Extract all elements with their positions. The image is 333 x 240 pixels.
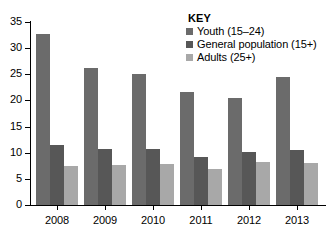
bar [194,157,208,205]
bar [36,34,50,205]
x-axis-label: 2010 [129,214,177,226]
legend-item: Youth (15–24) [186,25,332,38]
legend-item-label: Youth (15–24) [197,25,264,38]
x-axis-tick [105,206,106,210]
bar [112,165,126,205]
x-axis-tick [201,206,202,210]
bar [304,163,318,205]
x-axis-tick [249,206,250,210]
x-axis-label: 2011 [177,214,225,226]
bar [242,152,256,205]
bar [276,77,290,205]
legend-item: General population (15+) [186,38,332,51]
bar [50,145,64,205]
x-axis-tick [57,206,58,210]
legend-item-label: Adults (25+) [197,51,255,64]
bar-group [132,0,174,205]
bar [256,162,270,205]
bar [64,166,78,205]
x-axis-line [30,205,326,206]
bar-chart: 05101520253035 200820092010201120122013 … [0,0,333,240]
bar [84,68,98,206]
y-axis-tick [25,205,30,206]
legend-swatch-icon [186,54,193,61]
x-axis-tick [297,206,298,210]
bar-group [36,0,78,205]
legend-swatch-icon [186,28,193,35]
x-axis-label: 2009 [81,214,129,226]
legend-swatch-icon [186,41,193,48]
bar-group [84,0,126,205]
legend-entries: Youth (15–24)General population (15+)Adu… [186,25,332,64]
x-axis-label: 2013 [273,214,321,226]
bar [98,149,112,205]
legend-title: KEY [188,12,332,25]
legend: KEY Youth (15–24)General population (15+… [186,12,332,64]
bar [208,169,222,205]
x-axis-tick [153,206,154,210]
legend-item: Adults (25+) [186,51,332,64]
bar [180,92,194,205]
bar [146,149,160,205]
bar [228,98,242,205]
x-axis-label: 2012 [225,214,273,226]
bar [160,164,174,205]
x-axis-label: 2008 [33,214,81,226]
bar [290,150,304,205]
legend-item-label: General population (15+) [197,38,317,51]
bar [132,74,146,205]
